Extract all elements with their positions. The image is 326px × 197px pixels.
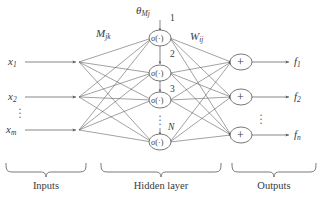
- output-node-operator-n: +: [237, 128, 244, 143]
- output-label-f1: f1: [294, 55, 301, 69]
- input-label-x2: x2: [8, 90, 17, 104]
- hidden-node-number-N: N: [168, 122, 174, 132]
- hidden-node-activation-N: σ(·): [151, 138, 163, 147]
- input-label-xm: xm: [6, 123, 16, 137]
- caption-inputs: Inputs: [6, 180, 86, 191]
- caption-hidden-layer: Hidden layer: [101, 180, 221, 191]
- group-braces: [6, 163, 316, 177]
- hidden-output-edges: [170, 38, 231, 142]
- neural-network-figure: x1 x2 xm ... Mjk Wij θMj 1 2 3 N ... σ(·…: [0, 0, 326, 197]
- hidden-ellipsis: ...: [155, 111, 165, 123]
- hidden-node-activation-3: σ(·): [151, 96, 163, 105]
- output-node-operator-2: +: [237, 90, 244, 105]
- output-ellipsis: ...: [256, 110, 266, 122]
- hidden-node-number-2: 2: [170, 49, 175, 59]
- output-node-operator-1: +: [237, 55, 244, 70]
- output-label-fn: fn: [294, 128, 301, 142]
- hidden-node-number-3: 3: [170, 84, 175, 94]
- caption-outputs: Outputs: [232, 180, 316, 191]
- output-label-f2: f2: [294, 90, 301, 104]
- hidden-node-number-1: 1: [170, 13, 175, 23]
- output-connections: [252, 62, 289, 135]
- hidden-node-activation-1: σ(·): [151, 34, 163, 43]
- input-label-x1: x1: [8, 55, 17, 69]
- input-weight-label: Mjk: [96, 27, 111, 41]
- bias-label: θMj: [136, 4, 150, 18]
- input-ellipsis: ...: [15, 104, 25, 116]
- input-hidden-edges: [79, 38, 152, 142]
- input-connections: [25, 62, 76, 130]
- hidden-node-activation-2: σ(·): [151, 69, 163, 78]
- output-weight-label: Wij: [190, 30, 203, 44]
